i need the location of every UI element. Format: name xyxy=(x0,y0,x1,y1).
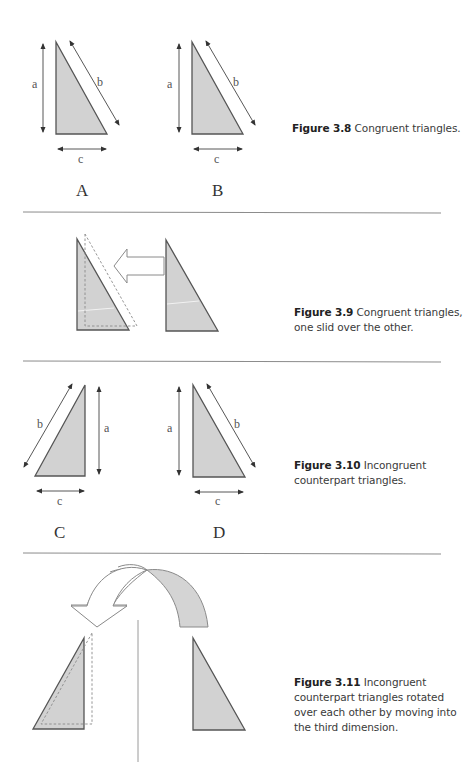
side-a-label: a xyxy=(104,421,110,435)
caption-line-3: over each other by moving into xyxy=(294,705,457,720)
figure-3-8: a b c A a b c B xyxy=(32,41,255,200)
figure-3-10: a b c C a b c D xyxy=(24,384,255,542)
triangle-original xyxy=(193,638,245,730)
caption-text: Congruent triangles, xyxy=(357,306,463,318)
caption-line-2: one slid over the other. xyxy=(294,320,463,335)
caption-figure-3-10: Figure 3.10 Incongruent counterpart tria… xyxy=(294,458,426,488)
side-a-label: a xyxy=(32,77,38,91)
triangle-b-label: B xyxy=(212,181,223,200)
triangle-a-label: A xyxy=(76,181,89,200)
triangle-b-group: a b c B xyxy=(167,41,255,200)
triangle-a-group: a b c A xyxy=(32,41,119,200)
section-divider xyxy=(23,361,441,362)
rotation-arrow-back xyxy=(147,569,208,627)
figures-canvas: a b c A a b c B xyxy=(0,0,463,776)
triangle-d-group: a b c D xyxy=(167,384,255,542)
triangle-rotated xyxy=(33,638,84,729)
caption-line-2: counterpart triangles. xyxy=(294,473,426,488)
caption-text: Congruent triangles. xyxy=(355,122,461,134)
side-b-label: b xyxy=(97,75,103,89)
rotation-arrow-front xyxy=(71,567,147,627)
triangle-d xyxy=(193,385,245,477)
slide-arrow-icon xyxy=(114,249,164,283)
triangle-original xyxy=(166,240,218,331)
side-b-label: b xyxy=(37,417,43,431)
side-b-label: b xyxy=(233,75,239,89)
side-c-label: c xyxy=(78,152,83,166)
caption-number: Figure 3.10 xyxy=(294,459,361,471)
section-divider xyxy=(23,553,441,554)
figure-3-11 xyxy=(33,565,245,762)
section-divider xyxy=(23,212,441,213)
figure-3-9 xyxy=(77,234,218,331)
caption-figure-3-11: Figure 3.11 Incongruent counterpart tria… xyxy=(294,675,457,735)
side-c-label: c xyxy=(57,494,62,508)
side-b-label: b xyxy=(234,417,240,431)
side-a-label: a xyxy=(167,421,173,435)
triangle-c-label: C xyxy=(54,523,65,542)
caption-figure-3-9: Figure 3.9 Congruent triangles, one slid… xyxy=(294,305,463,335)
caption-number: Figure 3.11 xyxy=(294,676,361,688)
triangle-c-group: a b c C xyxy=(24,384,110,542)
caption-number: Figure 3.8 xyxy=(292,122,351,134)
caption-line-4: the third dimension. xyxy=(294,720,457,735)
side-c-label: c xyxy=(214,152,219,166)
caption-text: Incongruent xyxy=(364,676,426,688)
caption-text: Incongruent xyxy=(364,459,426,471)
triangle-d-label: D xyxy=(213,523,225,542)
side-a-label: a xyxy=(167,77,173,91)
caption-figure-3-8: Figure 3.8 Congruent triangles. xyxy=(292,121,461,136)
side-c-label: c xyxy=(215,494,220,508)
caption-number: Figure 3.9 xyxy=(294,306,353,318)
caption-line-2: counterpart triangles rotated xyxy=(294,690,457,705)
